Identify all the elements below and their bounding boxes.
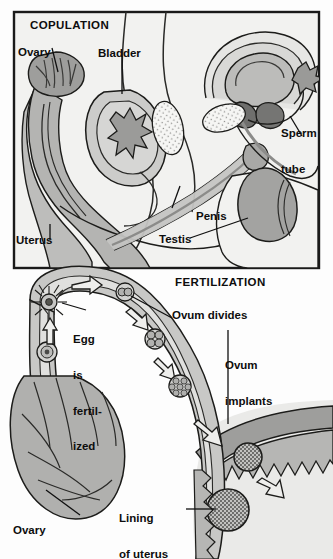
label-testis: Testis xyxy=(159,234,191,246)
label-penis: Penis xyxy=(196,211,227,223)
label-sperm-tube-line2: tube xyxy=(281,164,317,176)
figure-canvas: COPULATION Ovary Bladder Sperm tube Peni… xyxy=(0,0,333,559)
copulation-heading: COPULATION xyxy=(30,20,109,32)
label-egg-line2: is xyxy=(73,370,102,382)
label-egg-is-fertilized: Egg is fertil- ized xyxy=(73,310,102,477)
label-ovum-divides: Ovum divides xyxy=(172,310,247,322)
label-sperm-tube: Sperm tube xyxy=(281,104,317,200)
label-lining-line1: Lining xyxy=(119,513,168,525)
label-uterus: Uterus xyxy=(16,235,52,247)
label-lining-of-uterus: Lining of uterus xyxy=(119,489,168,559)
copulation-panel xyxy=(14,12,324,268)
stage-ovum-unfertilized xyxy=(37,342,57,362)
stage-morula xyxy=(169,375,191,397)
reproduction-illustration xyxy=(0,0,333,559)
label-ovum-implants-line2: implants xyxy=(225,396,272,408)
stage-two-cell xyxy=(116,283,134,301)
label-ovum-implants: Ovum implants xyxy=(225,336,272,432)
label-egg-line3: fertil- xyxy=(73,406,102,418)
stage-four-cell xyxy=(145,329,165,349)
label-bladder: Bladder xyxy=(98,48,141,60)
label-ovary: Ovary xyxy=(18,47,51,59)
label-lining-line2: of uterus xyxy=(119,549,168,559)
label-egg-line1: Egg xyxy=(73,334,102,346)
label-ovary-lower: Ovary xyxy=(13,525,46,537)
fertilization-heading: FERTILIZATION xyxy=(175,277,266,289)
label-egg-line4: ized xyxy=(73,441,102,453)
label-ovum-implants-line1: Ovum xyxy=(225,360,272,372)
label-sperm-tube-line1: Sperm xyxy=(281,128,317,140)
stage-blastocyst xyxy=(234,443,262,471)
